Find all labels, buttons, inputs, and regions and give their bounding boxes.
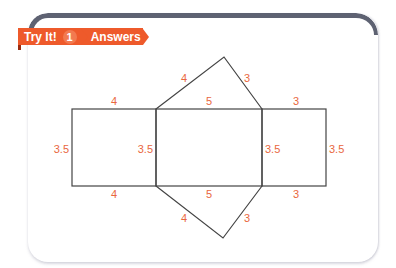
middle-rectangle <box>156 109 262 186</box>
label-middle-rect-right: 3.5 <box>265 143 280 155</box>
label-left-rect-bottom: 4 <box>111 188 117 200</box>
label-top-triangle-right: 3 <box>244 72 250 84</box>
prism-net-diagram: 4 4 3.5 3.5 5 5 3.5 3 3 3.5 4 3 4 3 <box>0 0 396 268</box>
label-left-rect-left: 3.5 <box>54 143 69 155</box>
label-right-rect-right: 3.5 <box>329 143 344 155</box>
label-middle-rect-left: 3.5 <box>138 143 153 155</box>
label-middle-rect-bottom: 5 <box>206 188 212 200</box>
label-right-rect-top: 3 <box>293 95 299 107</box>
label-top-triangle-left: 4 <box>181 72 187 84</box>
label-right-rect-bottom: 3 <box>293 188 299 200</box>
net-lines <box>72 57 326 238</box>
chevron-separator-icon <box>81 29 88 45</box>
label-bottom-triangle-right: 3 <box>244 212 250 224</box>
label-bottom-triangle-left: 4 <box>181 212 187 224</box>
label-middle-rect-top: 5 <box>206 95 212 107</box>
label-left-rect-top: 4 <box>111 95 117 107</box>
